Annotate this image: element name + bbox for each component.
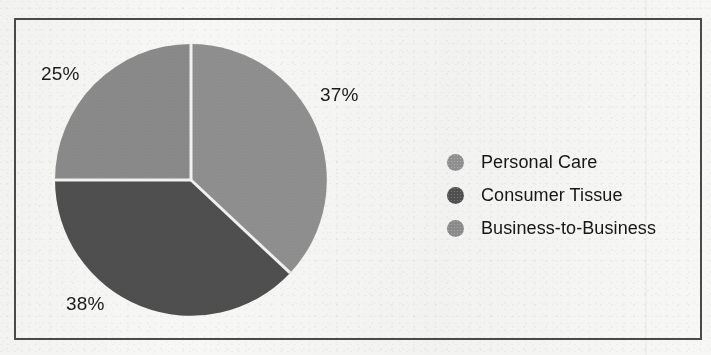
- legend-swatch-business-to-business: [447, 220, 464, 237]
- slice-label-consumer-tissue: 38%: [66, 293, 105, 315]
- pie-chart-svg: [55, 44, 327, 316]
- legend-item-consumer-tissue: Consumer Tissue: [447, 179, 656, 212]
- legend-item-business-to-business: Business-to-Business: [447, 212, 656, 245]
- chart-legend: Personal Care Consumer Tissue Business-t…: [447, 146, 656, 245]
- slice-label-personal-care: 37%: [320, 84, 359, 106]
- pie-chart-screenshot: 25% 37% 38% Personal Care Consumer Tissu…: [0, 0, 711, 355]
- legend-swatch-consumer-tissue: [447, 187, 464, 204]
- legend-label-business-to-business: Business-to-Business: [481, 218, 656, 239]
- legend-label-consumer-tissue: Consumer Tissue: [481, 185, 623, 206]
- pie-chart: [55, 44, 327, 316]
- legend-item-personal-care: Personal Care: [447, 146, 656, 179]
- slice-label-business-to-business: 25%: [41, 63, 80, 85]
- legend-swatch-personal-care: [447, 154, 464, 171]
- legend-label-personal-care: Personal Care: [481, 152, 597, 173]
